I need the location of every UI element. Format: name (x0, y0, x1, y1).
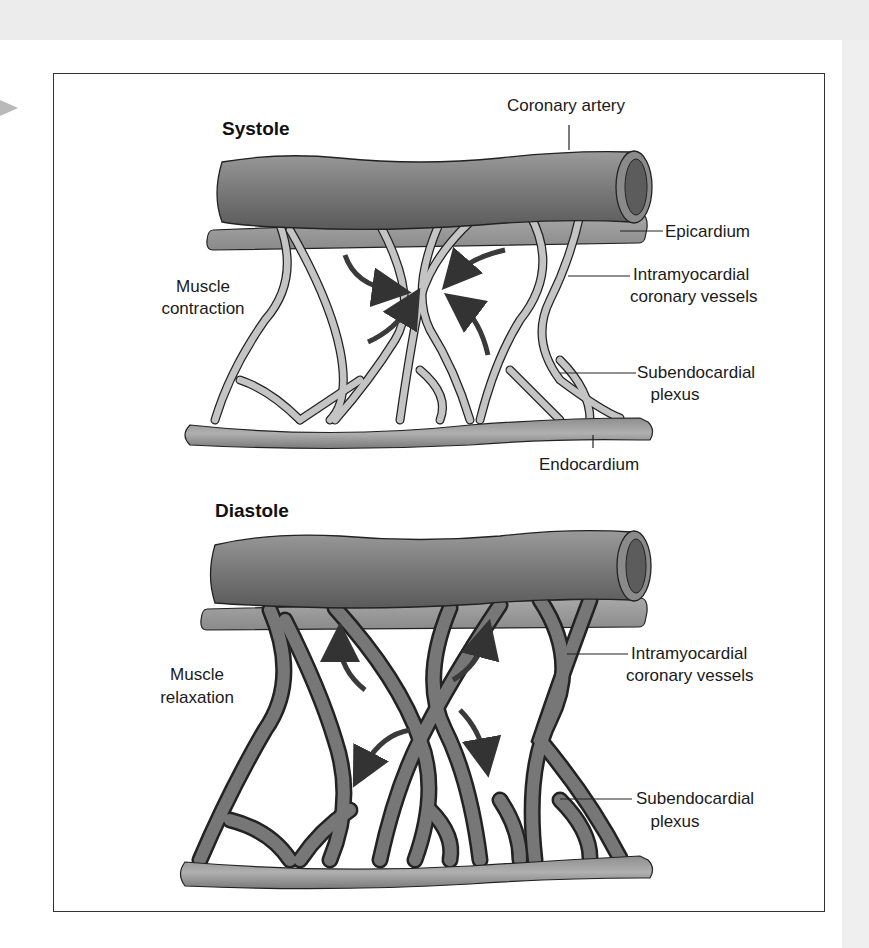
intramyocardial-label-line2: coronary vessels (630, 287, 758, 306)
systole-title: Systole (222, 118, 290, 139)
diastole-title: Diastole (215, 500, 289, 521)
intramyocardial-label-diastole-line1: Intramyocardial (631, 644, 747, 663)
diastole-panel: Diastole (160, 500, 754, 889)
intramyocardial-label-line1: Intramyocardial (633, 265, 749, 284)
intramyocardial-label-diastole-line2: coronary vessels (626, 666, 754, 685)
subendocardial-label-line1: Subendocardial (637, 363, 755, 382)
muscle-contraction-label-line2: contraction (161, 299, 244, 318)
subendocardial-label-diastole-line1: Subendocardial (636, 789, 754, 808)
endocardium-label: Endocardium (539, 455, 639, 474)
coronary-artery (217, 152, 632, 230)
subendocardial-label-line2: plexus (650, 385, 699, 404)
coronary-artery-diastole (211, 531, 633, 608)
subendocardial-label-diastole-line2: plexus (650, 812, 699, 831)
coronary-flow-diagram: Systole (0, 0, 869, 948)
muscle-relaxation-label-line1: Muscle (170, 665, 224, 684)
muscle-relaxation-label-line2: relaxation (160, 688, 234, 707)
coronary-artery-label: Coronary artery (507, 96, 626, 115)
systole-panel: Systole (161, 96, 757, 474)
endocardium-layer (185, 418, 653, 449)
epicardium-label: Epicardium (665, 222, 750, 241)
muscle-contraction-label-line1: Muscle (176, 277, 230, 296)
